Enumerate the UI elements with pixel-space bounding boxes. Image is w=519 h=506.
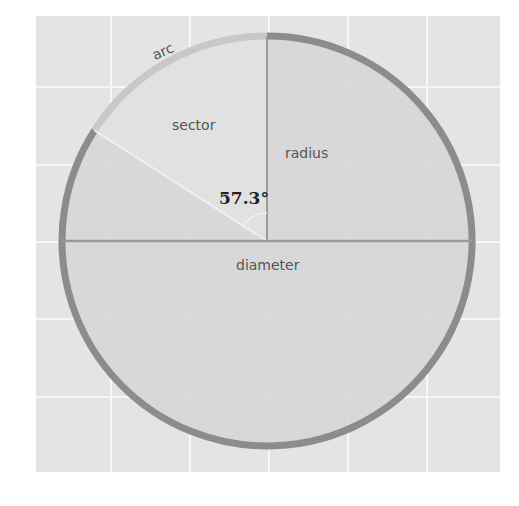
radius-label: radius — [285, 145, 328, 161]
circle-diagram: arc sector radius 57.3° diameter — [0, 0, 519, 506]
sector-label: sector — [172, 117, 216, 133]
angle-label: 57.3° — [219, 188, 269, 208]
diameter-label: diameter — [236, 257, 300, 273]
